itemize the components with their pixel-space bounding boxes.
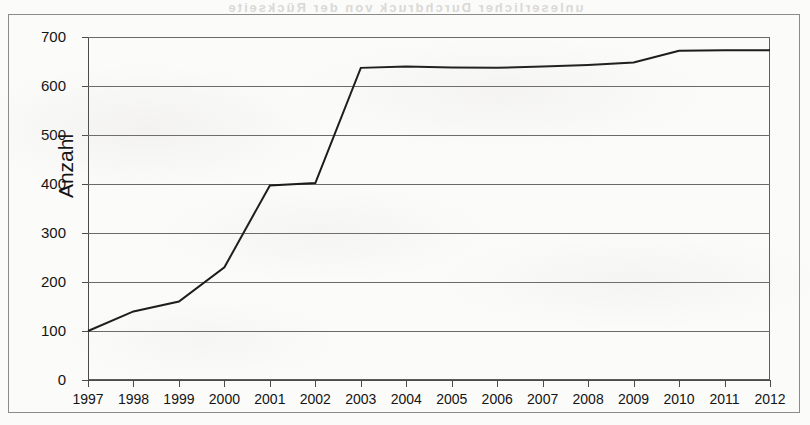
line-chart: Anzahl 0100200300400500600700 1997199819… <box>0 0 810 425</box>
series-line-anzahl <box>88 50 770 331</box>
data-series-svg <box>0 0 810 425</box>
